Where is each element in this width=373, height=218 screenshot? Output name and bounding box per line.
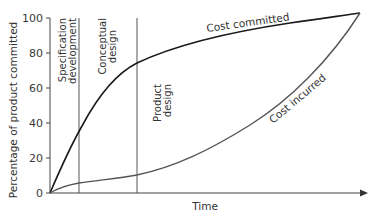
y-tick-80: 80 [29,47,43,60]
y-tick-0: 0 [36,187,43,200]
cost-incurred-label: Cost incurred [267,71,328,125]
y-axis-label: Percentage of product committed [7,22,19,199]
y-tick-labels: 0 20 40 60 80 100 [22,12,43,200]
y-tick-40: 40 [29,117,43,130]
y-tick-20: 20 [29,152,43,165]
x-axis-arrow-icon [360,190,368,197]
phase-label-product: Product design [152,84,173,122]
svg-text:development: development [67,18,78,84]
svg-text:design: design [107,30,118,63]
x-axis-label: Time [191,200,218,212]
y-ticks [46,18,50,193]
y-tick-60: 60 [29,82,43,95]
cost-commitment-chart: 0 20 40 60 80 100 Percentage of product … [0,0,373,218]
y-tick-100: 100 [22,12,43,25]
phase-label-concept: Conceptual design [97,18,118,75]
phase-label-spec: Specification development [57,18,78,84]
svg-text:design: design [162,84,173,117]
